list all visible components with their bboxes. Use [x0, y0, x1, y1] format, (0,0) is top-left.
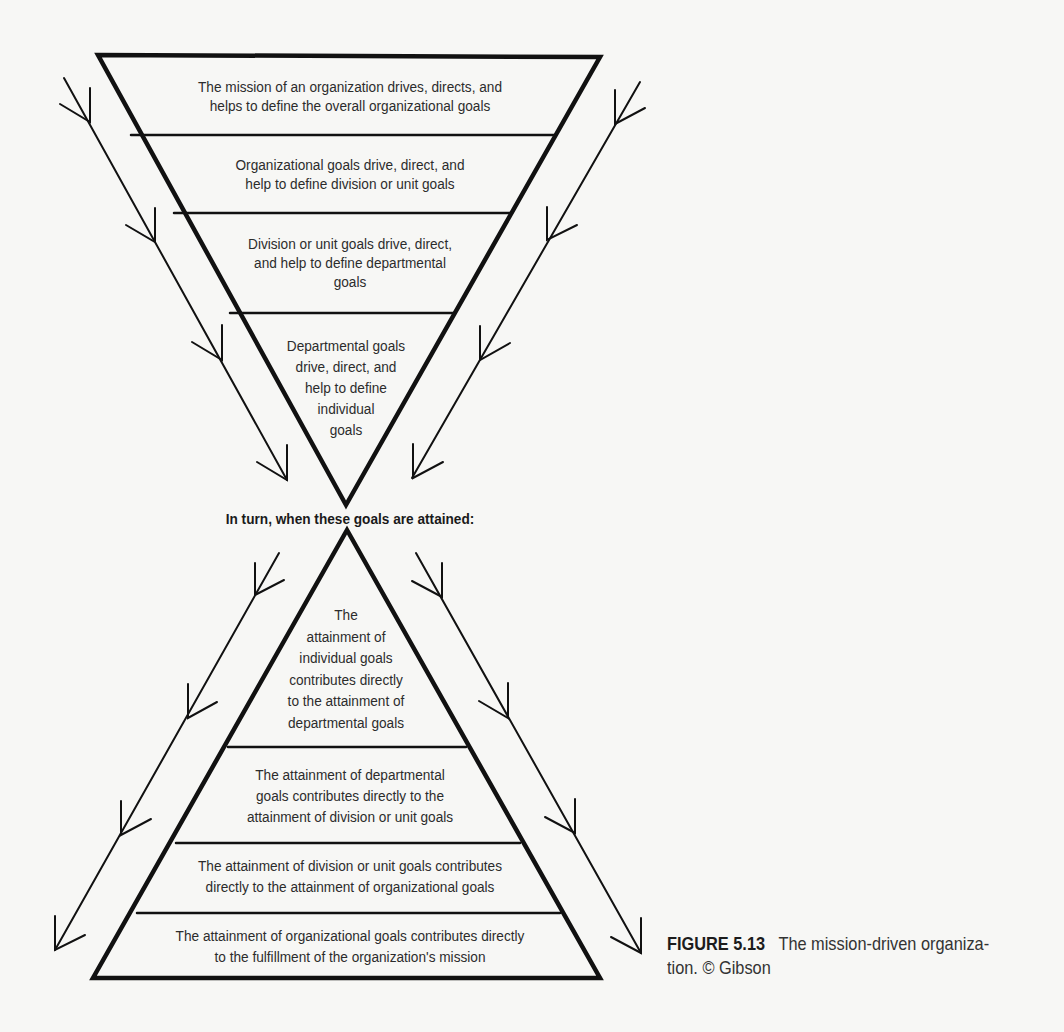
text-line: individual — [258, 398, 434, 419]
text-line: help to define division or unit goals — [183, 174, 517, 193]
figure-caption: FIGURE 5.13 The mission-driven organiza-… — [667, 932, 1007, 980]
top-section-4-text: Departmental goals drive, direct, and he… — [258, 335, 434, 440]
upright-triangle — [93, 530, 600, 978]
text-line: and help to define departmental — [209, 253, 491, 272]
bottom-section-4-text: The attainment of organizational goals c… — [130, 925, 570, 967]
text-line: departmental goals — [258, 712, 434, 734]
text-line: contributes directly — [258, 669, 434, 691]
top-section-2-text: Organizational goals drive, direct, and … — [183, 155, 517, 193]
text-line: Departmental goals — [258, 335, 434, 356]
text-line: goals — [258, 419, 434, 440]
transition-label: In turn, when these goals are attained: — [174, 510, 526, 528]
text-line: Division or unit goals drive, direct, — [209, 234, 491, 253]
caption-text-1: The mission-driven organiza- — [778, 933, 989, 954]
bottom-section-3-text: The attainment of division or unit goals… — [165, 855, 535, 897]
bottom-section-1-text: The attainment of individual goals contr… — [258, 604, 434, 733]
text-line: attainment of — [258, 626, 434, 648]
text-line: help to define — [258, 377, 434, 398]
figure-number: FIGURE 5.13 — [667, 933, 765, 954]
text-line: directly to the attainment of organizati… — [165, 876, 535, 897]
text-line: individual goals — [258, 647, 434, 669]
text-line: to the fulfillment of the organization's… — [130, 946, 570, 967]
text-line: The attainment of organizational goals c… — [130, 925, 570, 946]
text-line: The attainment of departmental — [214, 764, 487, 785]
text-line: The mission of an organization drives, d… — [148, 77, 553, 96]
text-line: goals contributes directly to the — [214, 785, 487, 806]
caption-line-1: FIGURE 5.13 The mission-driven organiza- — [667, 932, 1007, 956]
text-line: helps to define the overall organization… — [148, 96, 553, 115]
text-line: to the attainment of — [258, 690, 434, 712]
text-line: drive, direct, and — [258, 356, 434, 377]
text-line: goals — [209, 272, 491, 291]
text-line: Organizational goals drive, direct, and — [183, 155, 517, 174]
text-line: attainment of division or unit goals — [214, 806, 487, 827]
bottom-section-2-text: The attainment of departmental goals con… — [214, 764, 487, 827]
top-section-3-text: Division or unit goals drive, direct, an… — [209, 234, 491, 291]
top-section-1-text: The mission of an organization drives, d… — [148, 77, 553, 115]
text-line: The attainment of division or unit goals… — [165, 855, 535, 876]
caption-text-2: tion. © Gibson — [667, 956, 1007, 980]
text-line: The — [258, 604, 434, 626]
